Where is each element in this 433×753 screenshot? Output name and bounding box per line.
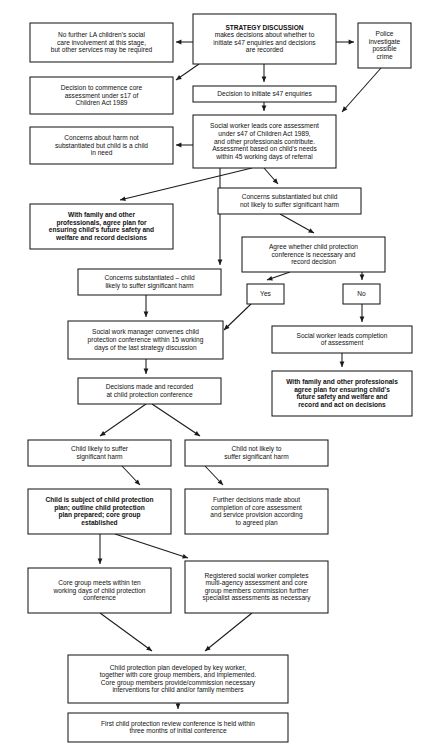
flowchart-canvas: No further LA children's socialcare invo…	[0, 0, 433, 753]
node-with-family-agree-plan-right-label: With family and other professionalsagree…	[286, 378, 398, 408]
node-concerns-substantiated-likely-significant-harm-label: Concerns substantiated – childlikely to …	[104, 274, 195, 290]
node-social-work-manager-convenes-conference-label: Social work manager convenes childprotec…	[88, 328, 204, 351]
edge-decisions-to-child-likely-arrowhead	[100, 431, 106, 436]
edge-cp-plan-to-registered-sw-line	[115, 534, 188, 558]
edge-initiate-s47-to-core-assessment	[262, 102, 267, 111]
node-no-further-involvement-label: No further LA children's socialcare invo…	[51, 31, 153, 54]
edge-decisions-to-child-not-likely-arrowhead	[194, 431, 200, 436]
node-no-further-involvement[interactable]: No further LA children's socialcare invo…	[30, 23, 173, 62]
node-concerns-substantiated-not-likely-significant-harm-label: Concerns substantiated but childnot like…	[240, 193, 340, 209]
node-decision-initiate-s47-enquiries-label: Decision to initiate s47 enquiries	[217, 90, 312, 98]
edge-registered-sw-to-cp-plan-developed	[205, 613, 252, 651]
edge-child-not-likely-to-further	[205, 466, 223, 485]
node-social-worker-leads-core-assessment-label: Social worker leads core assessmentunder…	[210, 122, 319, 160]
node-decision-no[interactable]: No	[343, 284, 380, 304]
node-concerns-substantiated-not-likely-significant-harm[interactable]: Concerns substantiated but childnot like…	[218, 188, 361, 214]
edge-strategy-to-no-further	[176, 40, 193, 45]
edge-core-group-to-cp-plan-developed	[100, 613, 152, 651]
edge-no-to-completion-arrowhead	[360, 317, 365, 322]
edge-core-assessment-to-agree-plan-arrowhead	[120, 196, 126, 201]
edge-manager-to-decisions-made-arrowhead	[144, 369, 149, 374]
edge-police-to-core-assessment	[342, 68, 381, 112]
edge-cp-plan-to-registered-sw	[115, 534, 188, 559]
edge-child-likely-to-cp-plan	[122, 466, 140, 485]
node-police-investigate[interactable]: Policeinvestigatepossiblecrime	[358, 23, 411, 68]
edge-core-assessment-to-concerns-not-likely	[264, 168, 278, 184]
edge-agree-whether-to-no-arrowhead	[360, 275, 365, 280]
edge-completion-to-agree-plan-right	[340, 353, 345, 367]
node-decision-yes[interactable]: Yes	[247, 284, 284, 304]
node-with-family-agree-plan-right[interactable]: With family and other professionalsagree…	[272, 371, 412, 416]
node-social-work-manager-convenes-conference[interactable]: Social work manager convenes childprotec…	[68, 321, 223, 359]
edge-concerns-likely-to-manager-arrowhead	[144, 312, 149, 317]
node-child-not-likely-to-suffer-significant-harm-label: Child not likely tosuffer significant ha…	[224, 445, 289, 461]
node-child-likely-to-suffer-significant-harm-label: Child likely to suffersignificant harm	[71, 445, 129, 461]
edge-strategy-to-police	[336, 40, 354, 45]
node-agree-whether-conference-necessary[interactable]: Agree whether child protectionconference…	[242, 237, 385, 272]
edge-yes-to-manager-line	[224, 304, 251, 330]
node-social-worker-leads-completion-of-assessment[interactable]: Social worker leads completionof assessm…	[272, 326, 412, 353]
edge-core-assessment-to-not-substantiated	[176, 143, 193, 148]
edge-decisions-to-child-likely	[100, 404, 146, 436]
node-decision-initiate-s47-enquiries[interactable]: Decision to initiate s47 enquiries	[193, 86, 336, 102]
node-decision-no-label: No	[357, 290, 366, 297]
nodes-layer: No further LA children's socialcare invo…	[28, 14, 412, 742]
edge-core-assessment-to-concerns-likely	[218, 168, 223, 265]
node-decision-yes-label: Yes	[260, 290, 271, 297]
edge-cp-plan-to-registered-sw-arrowhead	[182, 554, 188, 559]
edge-yes-to-manager	[224, 304, 251, 330]
edge-core-group-to-cp-plan-developed-arrowhead	[146, 646, 152, 651]
edge-strategy-to-initiate-s47	[262, 64, 267, 82]
node-social-worker-leads-core-assessment[interactable]: Social worker leads core assessmentunder…	[193, 115, 336, 168]
edge-core-assessment-to-not-substantiated-arrowhead	[176, 143, 181, 148]
edge-manager-to-decisions-made	[144, 359, 149, 374]
edge-decisions-to-child-not-likely-line	[152, 404, 200, 436]
node-with-family-agree-plan-left[interactable]: With family and otherprofessionals, agre…	[30, 204, 173, 249]
edge-strategy-to-commence-core	[176, 64, 199, 80]
edge-decisions-to-child-not-likely	[152, 404, 200, 436]
edge-decisions-to-child-likely-line	[100, 404, 146, 436]
edge-no-to-completion	[360, 304, 365, 322]
node-further-decisions-core-assessment[interactable]: Further decisions made aboutcompletion o…	[185, 489, 328, 534]
edge-strategy-to-police-arrowhead	[349, 40, 354, 45]
node-child-likely-to-suffer-significant-harm[interactable]: Child likely to suffersignificant harm	[28, 440, 171, 466]
edge-strategy-to-commence-core-arrowhead	[176, 75, 182, 80]
node-decisions-made-and-recorded-at-conference-label: Decisions made and recordedat child prot…	[106, 383, 194, 399]
edge-agree-whether-to-no	[360, 272, 365, 280]
node-child-protection-plan-developed-by-key-worker[interactable]: Child protection plan developed by key w…	[68, 655, 288, 703]
node-first-child-protection-review-conference[interactable]: First child protection review conference…	[68, 713, 288, 742]
edge-agree-whether-to-yes	[267, 272, 290, 280]
node-registered-social-worker-completes-assessment[interactable]: Registered social worker completesmulti-…	[185, 561, 328, 613]
edge-initiate-s47-to-core-assessment-arrowhead	[262, 106, 267, 111]
edge-agree-whether-to-yes-arrowhead	[267, 276, 273, 281]
edge-cp-plan-to-core-group-arrowhead	[98, 559, 103, 564]
edge-completion-to-agree-plan-right-arrowhead	[340, 362, 345, 367]
edge-strategy-to-initiate-s47-arrowhead	[262, 77, 267, 82]
node-child-protection-plan-developed-by-key-worker-label: Child protection plan developed by key w…	[100, 663, 257, 694]
edge-core-group-to-cp-plan-developed-line	[100, 613, 152, 651]
edge-registered-sw-to-cp-plan-developed-line	[205, 613, 252, 651]
edge-strategy-to-no-further-arrowhead	[176, 40, 181, 45]
edge-core-assessment-to-concerns-likely-arrowhead	[218, 260, 223, 265]
flowchart-svg: No further LA children's socialcare invo…	[0, 0, 433, 753]
node-strategy-discussion[interactable]: STRATEGY DISCUSSIONmakes decisions about…	[193, 14, 336, 64]
edge-concerns-not-likely-to-agree-whether	[280, 214, 314, 233]
node-child-subject-of-child-protection-plan[interactable]: Child is subject of child protectionplan…	[28, 489, 171, 534]
node-decision-commence-core-assessment[interactable]: Decision to commence coreassessment unde…	[30, 77, 173, 114]
edge-police-to-core-assessment-line	[342, 68, 381, 112]
node-concerns-substantiated-likely-significant-harm[interactable]: Concerns substantiated – childlikely to …	[78, 269, 221, 295]
edge-cp-plan-to-core-group	[98, 534, 103, 564]
edge-concerns-not-likely-to-agree-whether-line	[280, 214, 314, 233]
edge-cp-plan-developed-to-review	[176, 703, 181, 709]
node-registered-social-worker-completes-assessment-label: Registered social worker completesmulti-…	[202, 571, 311, 602]
node-child-not-likely-to-suffer-significant-harm[interactable]: Child not likely tosuffer significant ha…	[185, 440, 328, 466]
node-concerns-not-substantiated-child-in-need[interactable]: Concerns about harm notsubstantiated but…	[30, 127, 173, 164]
edge-concerns-likely-to-manager	[144, 295, 149, 317]
edge-cp-plan-developed-to-review-arrowhead	[176, 704, 181, 709]
node-decisions-made-and-recorded-at-conference[interactable]: Decisions made and recordedat child prot…	[78, 378, 221, 404]
node-core-group-meets-within-ten-working-days[interactable]: Core group meets within tenworking days …	[28, 568, 171, 613]
